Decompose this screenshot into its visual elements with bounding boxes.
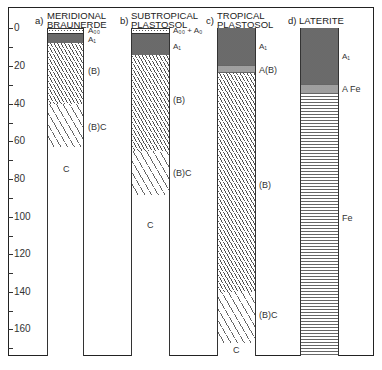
- soil-column: [47, 28, 84, 356]
- tick-100: [8, 217, 13, 218]
- horizon-c: [48, 147, 83, 356]
- horizon-afe: [301, 84, 338, 94]
- horizon-label: A₀₀ + A₀: [173, 26, 202, 36]
- horizon-bc: [48, 104, 83, 147]
- horizon-label: A₁: [173, 42, 181, 52]
- horizon-ab: [218, 65, 255, 73]
- horizon-label: A₁: [88, 35, 96, 45]
- tick-140: [8, 292, 13, 293]
- horizon-label: C: [147, 220, 154, 230]
- profile-letter: a): [35, 16, 43, 26]
- soil-column: [131, 28, 170, 356]
- horizon-bc: [218, 292, 255, 343]
- horizon-label: (B): [88, 66, 100, 76]
- horizon-a1: [132, 34, 169, 55]
- tick-minor: [8, 236, 13, 237]
- horizon-a1: [301, 28, 338, 84]
- tick-minor: [8, 47, 13, 48]
- tick-minor: [8, 273, 13, 274]
- profile-letter: b): [120, 16, 128, 26]
- tick-20: [8, 66, 13, 67]
- tick-minor: [8, 348, 13, 349]
- horizon-label: (B): [259, 180, 271, 190]
- tick-0: [8, 28, 13, 29]
- horizon-b: [48, 43, 83, 104]
- horizon-b: [132, 55, 169, 151]
- tick-label: 40: [14, 99, 25, 109]
- horizon-label: (B): [173, 95, 185, 105]
- tick-minor: [8, 198, 13, 199]
- tick-label: 0: [14, 23, 20, 33]
- horizon-label: A(B): [259, 65, 277, 75]
- horizon-label: A₁: [259, 42, 267, 52]
- tick-label: 160: [14, 324, 31, 334]
- soil-column: [300, 28, 339, 356]
- tick-label: 120: [14, 249, 31, 259]
- tick-label: 60: [14, 136, 25, 146]
- horizon-label: A₁: [342, 52, 350, 62]
- horizon-label: Fe: [342, 213, 353, 223]
- tick-minor: [8, 123, 13, 124]
- tick-minor: [8, 311, 13, 312]
- horizon-fe: [301, 94, 338, 356]
- horizon-b: [218, 73, 255, 292]
- tick-label: 140: [14, 287, 31, 297]
- tick-160: [8, 329, 13, 330]
- horizon-a1: [48, 34, 83, 43]
- tick-minor: [8, 160, 13, 161]
- profile-title: d) LATERITE: [288, 16, 344, 26]
- soil-column: [217, 28, 256, 356]
- horizon-label: C: [63, 164, 70, 174]
- horizon-label: (B)C: [259, 310, 278, 320]
- horizon-label: A Fe: [342, 84, 361, 94]
- tick-label: 20: [14, 61, 25, 71]
- horizon-a1: [218, 28, 255, 65]
- tick-label: 80: [14, 174, 25, 184]
- tick-label: 100: [14, 212, 31, 222]
- tick-minor: [8, 85, 13, 86]
- profile-letter: c): [206, 16, 214, 26]
- horizon-label: (B)C: [88, 122, 107, 132]
- tick-40: [8, 104, 13, 105]
- tick-80: [8, 179, 13, 180]
- horizon-bc: [132, 151, 169, 195]
- tick-60: [8, 141, 13, 142]
- tick-120: [8, 254, 13, 255]
- horizon-label: (B)C: [173, 168, 192, 178]
- horizon-label: C: [233, 345, 240, 355]
